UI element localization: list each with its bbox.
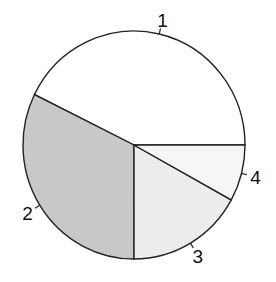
pie-slices [23,31,245,259]
pie-chart: 1234 [0,0,276,282]
slice-label-3: 3 [193,246,204,267]
label-tick [242,173,247,174]
slice-label-1: 1 [157,10,168,31]
label-tick [35,205,40,208]
slice-label-4: 4 [250,167,261,188]
slice-label-2: 2 [22,203,33,224]
